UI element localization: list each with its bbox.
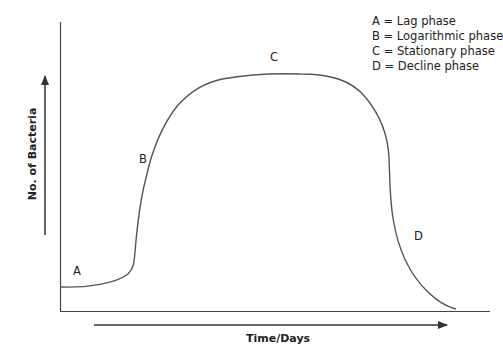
x-axis-label: Time/Days [246, 332, 310, 345]
y-axis-label: No. of Bacteria [26, 108, 39, 201]
legend-item-b: B = Logarithmic phase [372, 29, 503, 44]
phase-label-b: B [139, 152, 147, 166]
legend-item-d: D = Decline phase [372, 59, 503, 74]
legend-item-c: C = Stationary phase [372, 44, 503, 59]
growth-curve-line [60, 74, 456, 309]
phase-label-c: C [270, 50, 278, 64]
legend: A = Lag phase B = Logarithmic phase C = … [372, 14, 503, 74]
phase-label-a: A [73, 264, 81, 278]
legend-item-a: A = Lag phase [372, 14, 503, 29]
phase-label-d: D [414, 229, 423, 243]
